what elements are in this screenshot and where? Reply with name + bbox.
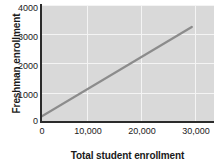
plot-area: [41, 5, 214, 122]
y-tick-label-2000: 2000: [12, 62, 38, 71]
y-axis-line: [40, 4, 42, 123]
y-axis-tick-labels: 4000 3000 2000 1000 0: [12, 0, 38, 168]
chart-figure: Freshman enrollment 4000 3000 2000 1000 …: [0, 0, 214, 168]
y-tick-label-1000: 1000: [12, 91, 38, 100]
x-tick-label-30000: 30,000: [173, 126, 214, 136]
y-tick-label-3000: 3000: [12, 33, 38, 42]
x-tick-label-20000: 20,000: [119, 126, 165, 136]
y-tick-label-4000: 4000: [12, 4, 38, 13]
x-axis-line: [40, 121, 214, 123]
trend-line: [41, 5, 214, 122]
x-axis-title: Total student enrollment: [41, 150, 214, 161]
trend-line-segment: [41, 27, 192, 117]
x-axis-tick-labels: 0 10,000 20,000 30,000: [0, 126, 214, 138]
x-tick-label-0: 0: [19, 126, 65, 136]
x-tick-label-10000: 10,000: [65, 126, 111, 136]
y-tick-label-0: 0: [12, 117, 38, 126]
